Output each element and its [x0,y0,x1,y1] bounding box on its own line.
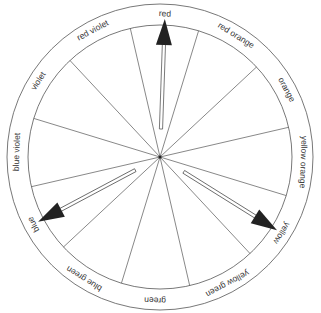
arrow-to-red [153,19,173,129]
color-wheel-diagram: redred orangeorangeyellow orangeyellowye… [0,0,321,313]
segment-label-blue-violet: blue violet [11,132,22,171]
segment-divider [160,31,199,157]
arrow-to-blue [34,163,139,229]
segment-label-yellow-green: yellow green [204,268,251,299]
segment-label-orange: orange [276,75,297,103]
segment-label-blue: blue [25,215,42,234]
segment-divider [70,60,160,157]
segment-label-red-violet: red violet [75,17,111,42]
triad-arrows [34,19,281,237]
segment-divider [160,67,257,157]
center-point [159,156,162,159]
segment-divider [130,28,160,157]
segment-divider [160,157,286,196]
segment-divider [160,157,190,286]
segment-divider [160,127,289,157]
segment-divider [31,157,160,187]
segment-label-yellow: yellow [271,221,292,247]
segment-label-green: green [144,295,166,306]
segment-label-violet: violet [29,69,48,92]
segment-label-yellow-orange: yellow orange [298,136,310,189]
segment-divider [34,118,160,157]
segment-label-red: red [159,8,172,18]
arrow-to-yellow [180,165,282,237]
